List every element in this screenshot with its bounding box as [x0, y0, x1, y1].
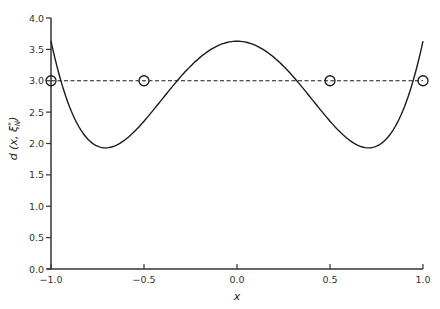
y-tick-label: 2.0	[29, 138, 44, 149]
y-tick-label: 0.5	[29, 232, 44, 243]
x-tick-label: 1.0	[415, 274, 430, 285]
y-tick-label: 1.0	[29, 201, 44, 212]
x-axis-ticks: −1.0−0.50.00.51.0	[39, 264, 430, 285]
y-tick-label: 0.0	[29, 264, 44, 275]
x-axis-label: x	[233, 290, 241, 303]
x-tick-label: 0.5	[322, 274, 337, 285]
y-tick-label: 3.0	[29, 75, 44, 86]
x-tick-label: 0.0	[229, 274, 244, 285]
y-tick-label: 2.5	[29, 107, 44, 118]
x-tick-label: −0.5	[132, 274, 155, 285]
chart: 0.00.51.01.52.02.53.03.54.0 −1.0−0.50.00…	[0, 0, 440, 309]
y-tick-label: 3.5	[29, 44, 44, 55]
variance-curve	[51, 41, 423, 148]
y-axis-ticks: 0.00.51.01.52.02.53.03.54.0	[29, 13, 51, 275]
x-tick-label: −1.0	[39, 274, 62, 285]
y-tick-label: 4.0	[29, 13, 44, 24]
y-axis-label: d (x, ξ*N)	[7, 117, 22, 160]
y-tick-label: 1.5	[29, 169, 44, 180]
